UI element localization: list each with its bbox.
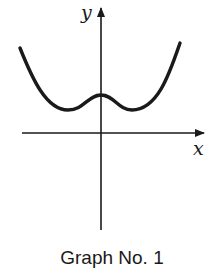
figure-caption: Graph No. 1 — [0, 247, 224, 269]
graph-canvas — [0, 0, 224, 273]
x-axis-label: x — [193, 139, 204, 158]
function-curve — [20, 43, 180, 110]
y-axis-label: y — [81, 3, 92, 22]
